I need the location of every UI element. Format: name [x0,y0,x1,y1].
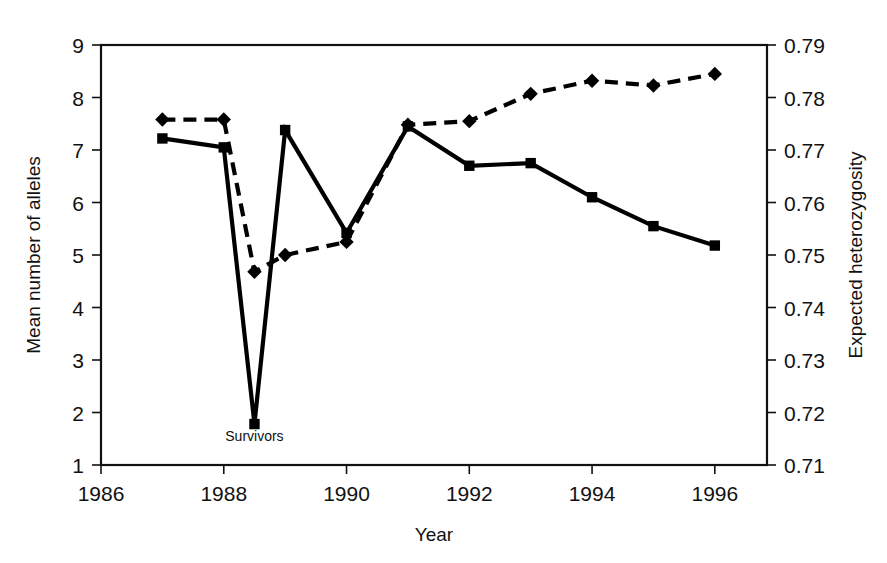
y2-tick-label: 0.77 [784,139,825,162]
x-tick-label: 1994 [569,482,616,505]
y-tick-label: 2 [72,402,84,425]
data-point-square-marker [157,133,167,143]
annotations-group: Survivors [225,428,283,444]
y-tick-label: 9 [72,34,84,57]
x-tick-label: 1988 [200,482,247,505]
y2-tick-label: 0.76 [784,192,825,215]
x-axis-title: Year [415,524,454,545]
y2-tick-label: 0.73 [784,349,825,372]
y2-tick-label: 0.79 [784,34,825,57]
y-tick-label: 8 [72,87,84,110]
chart-background [0,0,887,563]
x-tick-label: 1992 [446,482,493,505]
x-tick-label: 1990 [323,482,370,505]
y-tick-label: 6 [72,192,84,215]
y-tick-label: 7 [72,139,84,162]
x-tick-label: 1996 [691,482,738,505]
chart-container: 198619881990199219941996 123456789 0.710… [0,0,887,563]
y-tick-label: 3 [72,349,84,372]
survivors-annotation-label: Survivors [225,428,283,444]
y-axis-left-title: Mean number of alleles [23,156,44,354]
y2-tick-label: 0.71 [784,454,825,477]
y2-tick-label: 0.75 [784,244,825,267]
expected-heterozygosity-alleles-chart: 198619881990199219941996 123456789 0.710… [0,0,887,563]
y-tick-label: 1 [72,454,84,477]
y2-tick-label: 0.72 [784,402,825,425]
data-point-square-marker [280,125,290,135]
y2-tick-label: 0.74 [784,297,825,320]
data-point-square-marker [648,221,658,231]
y2-tick-label: 0.78 [784,87,825,110]
x-tick-label: 1986 [78,482,125,505]
y-tick-label: 5 [72,244,84,267]
y-tick-label: 4 [72,297,84,320]
data-point-square-marker [464,161,474,171]
y-axis-right-title: Expected heterozygosity [845,151,866,359]
data-point-square-marker [710,240,720,250]
data-point-square-marker [525,158,535,168]
data-point-square-marker [587,192,597,202]
